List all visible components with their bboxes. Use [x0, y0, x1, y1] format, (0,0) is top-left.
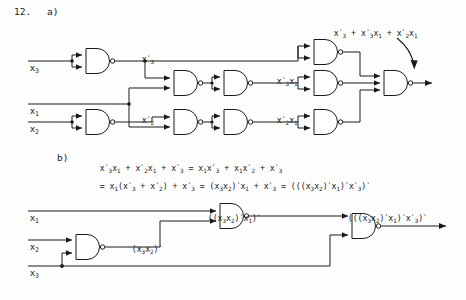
signal-label-x2-prime-x1: x'2x1	[257, 105, 298, 136]
input-label-x1-b: x1	[8, 203, 39, 235]
worksheet-page: 12. a) x3 x1 x2 x'3 x'2 x'3x1 x'2x1 x'3 …	[0, 0, 466, 300]
output-expression-b: (((x3x2)'x1)'x'3)'	[328, 203, 427, 234]
signal-label-x3-prime: x'3	[122, 44, 154, 75]
signal-label-nand1-out: (x3x2)'	[112, 234, 163, 265]
output-expression-a: x'3 + x'3x1 + x'2x1	[314, 18, 418, 49]
problem-number: 12.	[14, 6, 31, 17]
input-label-x3-a: x3	[8, 53, 39, 85]
part-a-label: a)	[47, 6, 58, 17]
signal-label-nand2-out: ((x3x2)'x1)'	[188, 203, 261, 234]
input-label-x2-a: x2	[8, 114, 39, 146]
part-b-label: b)	[57, 152, 68, 163]
signal-label-x2-prime: x'2	[122, 105, 154, 136]
input-label-x3-b: x3	[8, 258, 39, 290]
signal-label-x3-prime-x1: x'3x1	[257, 66, 298, 97]
equation-line-2: = x1(x'3 + x'2) + x'3 = (x3x2)'x1 + x'3 …	[80, 171, 370, 202]
